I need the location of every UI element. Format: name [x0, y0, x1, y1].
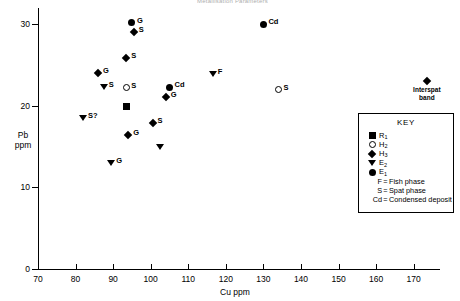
triangle-down-marker-icon [156, 144, 164, 150]
y-axis-title-line: Pb [8, 130, 38, 140]
x-tick [151, 264, 152, 269]
square-marker-icon [367, 131, 379, 140]
legend-item-desc: Spat phase [389, 187, 426, 195]
data-point-label: G [116, 157, 122, 165]
x-tick-label: 130 [248, 275, 278, 284]
x-tick [188, 264, 189, 269]
y-tick-label: 0 [0, 265, 30, 274]
triangle-down-glyph-icon [368, 160, 376, 166]
x-tick-label: 90 [98, 275, 128, 284]
diamond-marker-icon [94, 69, 102, 77]
x-tick [414, 264, 415, 269]
data-point-label: Interspatband [397, 86, 457, 101]
x-tick-label: 150 [324, 275, 354, 284]
diamond-marker-icon [423, 77, 431, 85]
data-point-label: F [218, 68, 223, 76]
triangle-down-marker-icon [107, 160, 115, 166]
y-tick [32, 187, 38, 188]
legend-item: H2 [367, 140, 453, 149]
triangle-down-marker-icon [209, 71, 217, 77]
circle-filled-glyph-icon [369, 169, 376, 176]
data-point-label: Cd [268, 18, 278, 26]
x-tick-label: 170 [399, 275, 429, 284]
x-tick-label: 140 [286, 275, 316, 284]
diamond-marker-icon [161, 93, 169, 101]
x-tick [38, 264, 39, 269]
data-point-label: S [283, 84, 288, 92]
y-tick-label: 10 [0, 183, 30, 192]
x-tick [376, 264, 377, 269]
x-tick [76, 264, 77, 269]
circle-open-glyph-icon [369, 141, 376, 148]
legend-item-desc: Fish phase [389, 178, 425, 186]
data-point-label: G [103, 67, 109, 75]
scatter-chart: Metallisation Parameters 0102030 7080901… [0, 0, 460, 301]
circle-filled-marker-icon [367, 168, 379, 177]
legend-item: Cd=Condensed deposit [367, 195, 453, 204]
circle-open-marker-icon [123, 84, 130, 91]
triangle-down-marker-icon [100, 84, 108, 90]
data-point-label: S [131, 82, 136, 90]
data-point-label: S [109, 81, 114, 89]
y-tick-label: 30 [0, 20, 30, 29]
y-tick [32, 269, 38, 270]
square-glyph-icon [369, 132, 376, 139]
legend-box: KEY R1H2H3E2E1F=Fish phaseS=Spat phaseCd… [358, 113, 454, 213]
diamond-marker-icon [130, 28, 138, 36]
diamond-glyph-icon [368, 150, 376, 158]
legend-item-equals: = [382, 187, 389, 195]
data-point-label: G [133, 129, 139, 137]
data-point-label: G [171, 91, 177, 99]
y-axis-title-line: ppm [8, 140, 38, 150]
y-tick-label: 20 [0, 102, 30, 111]
x-tick [301, 264, 302, 269]
x-tick [113, 264, 114, 269]
x-tick [339, 264, 340, 269]
x-tick-label: 100 [136, 275, 166, 284]
x-tick-label: 120 [211, 275, 241, 284]
x-tick [226, 264, 227, 269]
diamond-marker-icon [122, 54, 130, 62]
x-axis-line [38, 269, 440, 270]
legend-item-equals: = [382, 196, 389, 204]
x-tick-label: 80 [61, 275, 91, 284]
chart-title: Metallisation Parameters [150, 0, 315, 5]
y-axis-line [38, 8, 39, 270]
y-tick [32, 106, 38, 107]
data-point-label: S [139, 26, 144, 34]
data-point-label: S [131, 52, 136, 60]
legend-title: KEY [359, 118, 453, 127]
x-tick-label: 70 [23, 275, 53, 284]
legend-item-label: H2 [379, 141, 387, 149]
diamond-marker-icon [124, 131, 132, 139]
circle-filled-marker-icon [128, 19, 135, 26]
x-tick-label: 160 [361, 275, 391, 284]
y-tick [32, 24, 38, 25]
legend-item-key: Cd [367, 196, 382, 204]
legend-item: S=Spat phase [367, 186, 453, 195]
triangle-down-marker-icon [79, 115, 87, 121]
legend-item-key: F [367, 178, 382, 186]
legend-item: E1 [367, 168, 453, 177]
triangle-down-marker-icon [367, 159, 379, 168]
circle-filled-marker-icon [260, 21, 267, 28]
legend-item-key: S [367, 187, 382, 195]
y-axis-title: Pbppm [8, 130, 38, 150]
legend-item-label: R1 [379, 132, 387, 140]
data-point-label: S [158, 117, 163, 125]
diamond-marker-icon [148, 119, 156, 127]
square-marker-icon [123, 103, 130, 110]
circle-open-marker-icon [367, 140, 379, 149]
circle-open-marker-icon [275, 86, 282, 93]
diamond-marker-icon [367, 149, 379, 158]
data-point-label: G [137, 17, 143, 25]
legend-item-label: E2 [379, 159, 387, 167]
x-tick [263, 264, 264, 269]
legend-item-label: E1 [379, 168, 387, 176]
data-point-label: S? [88, 112, 98, 120]
legend-item: F=Fish phase [367, 177, 453, 186]
legend-item-label: H3 [379, 150, 387, 158]
legend-item-equals: = [382, 178, 389, 186]
data-point-label: Cd [174, 81, 184, 89]
legend-rows: R1H2H3E2E1F=Fish phaseS=Spat phaseCd=Con… [367, 131, 453, 205]
